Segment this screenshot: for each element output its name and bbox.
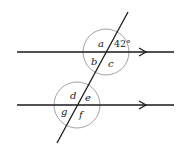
angle-label-e: e: [85, 92, 91, 103]
angle-label-42-degrees: 42°: [114, 38, 131, 49]
angle-label-g: g: [61, 106, 67, 117]
angle-label-d: d: [70, 90, 76, 101]
angle-label-f: f: [78, 109, 85, 120]
angle-diagram: a 42° b c d e g f: [0, 0, 184, 152]
angle-label-c: c: [108, 58, 114, 69]
angle-label-b: b: [91, 56, 97, 67]
angle-label-a: a: [98, 38, 104, 49]
transversal-line: [57, 12, 128, 143]
